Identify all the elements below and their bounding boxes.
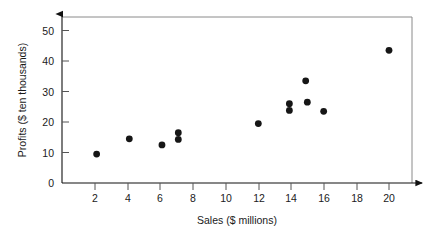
y-tick-label: 20 xyxy=(42,116,54,128)
x-axis-title: Sales ($ millions) xyxy=(197,214,277,226)
y-tick-label: 50 xyxy=(42,25,54,37)
data-point xyxy=(386,47,393,54)
y-tick-label: 30 xyxy=(42,86,54,98)
x-tick-label: 18 xyxy=(351,192,363,204)
chart-background xyxy=(0,0,434,235)
scatter-plot-figure: 50 40 30 20 10 0 2 4 6 8 10 12 1 xyxy=(0,0,434,235)
y-axis-title: Profits ($ ten thousands) xyxy=(16,43,28,157)
chart-canvas: 50 40 30 20 10 0 2 4 6 8 10 12 1 xyxy=(0,0,434,235)
data-point xyxy=(93,151,100,158)
data-point xyxy=(286,100,293,107)
x-tick-label: 14 xyxy=(285,192,297,204)
x-tick-label: 20 xyxy=(383,192,395,204)
y-tick-label: 10 xyxy=(42,147,54,159)
data-point xyxy=(175,136,182,143)
x-tick-label: 4 xyxy=(125,192,131,204)
data-point xyxy=(320,108,327,115)
y-tick-label: 0 xyxy=(48,177,54,189)
x-tick-label: 10 xyxy=(220,192,232,204)
data-point xyxy=(126,135,133,142)
data-point xyxy=(286,107,293,114)
x-tick-label: 8 xyxy=(190,192,196,204)
y-tick-label: 40 xyxy=(42,55,54,67)
data-point xyxy=(159,141,166,148)
data-point xyxy=(302,77,309,84)
x-tick-label: 2 xyxy=(92,192,98,204)
data-point xyxy=(175,129,182,136)
x-tick-label: 12 xyxy=(253,192,265,204)
x-tick-label: 6 xyxy=(157,192,163,204)
data-point xyxy=(255,120,262,127)
data-point xyxy=(304,99,311,106)
x-tick-label: 16 xyxy=(318,192,330,204)
